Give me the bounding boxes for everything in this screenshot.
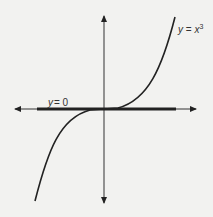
line-label: y= 0 <box>47 97 69 108</box>
cubic-graph: y = x3 y= 0 <box>0 0 213 217</box>
curve-label: y = x3 <box>177 23 203 35</box>
